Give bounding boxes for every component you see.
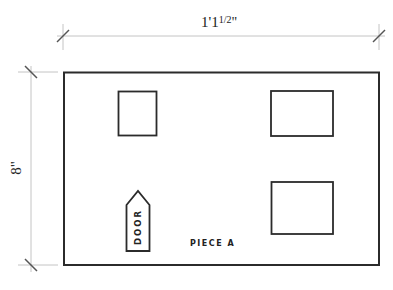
door: DOOR	[127, 191, 150, 251]
window-top-left	[119, 92, 157, 136]
window-bottom-right	[272, 182, 334, 234]
piece-label: PIECE A	[190, 239, 235, 248]
window-top-right	[271, 91, 333, 136]
width-dimension: 1'11/2"	[57, 14, 385, 50]
height-dimension-text: 8"	[8, 161, 24, 175]
piece-outline	[64, 73, 379, 266]
door-label: DOOR	[133, 209, 143, 245]
width-dimension-text: 1'11/2"	[201, 14, 237, 30]
elevation-drawing: 1'11/2" 8" DOOR PIECE A	[0, 0, 393, 290]
height-dimension: 8"	[8, 66, 58, 272]
